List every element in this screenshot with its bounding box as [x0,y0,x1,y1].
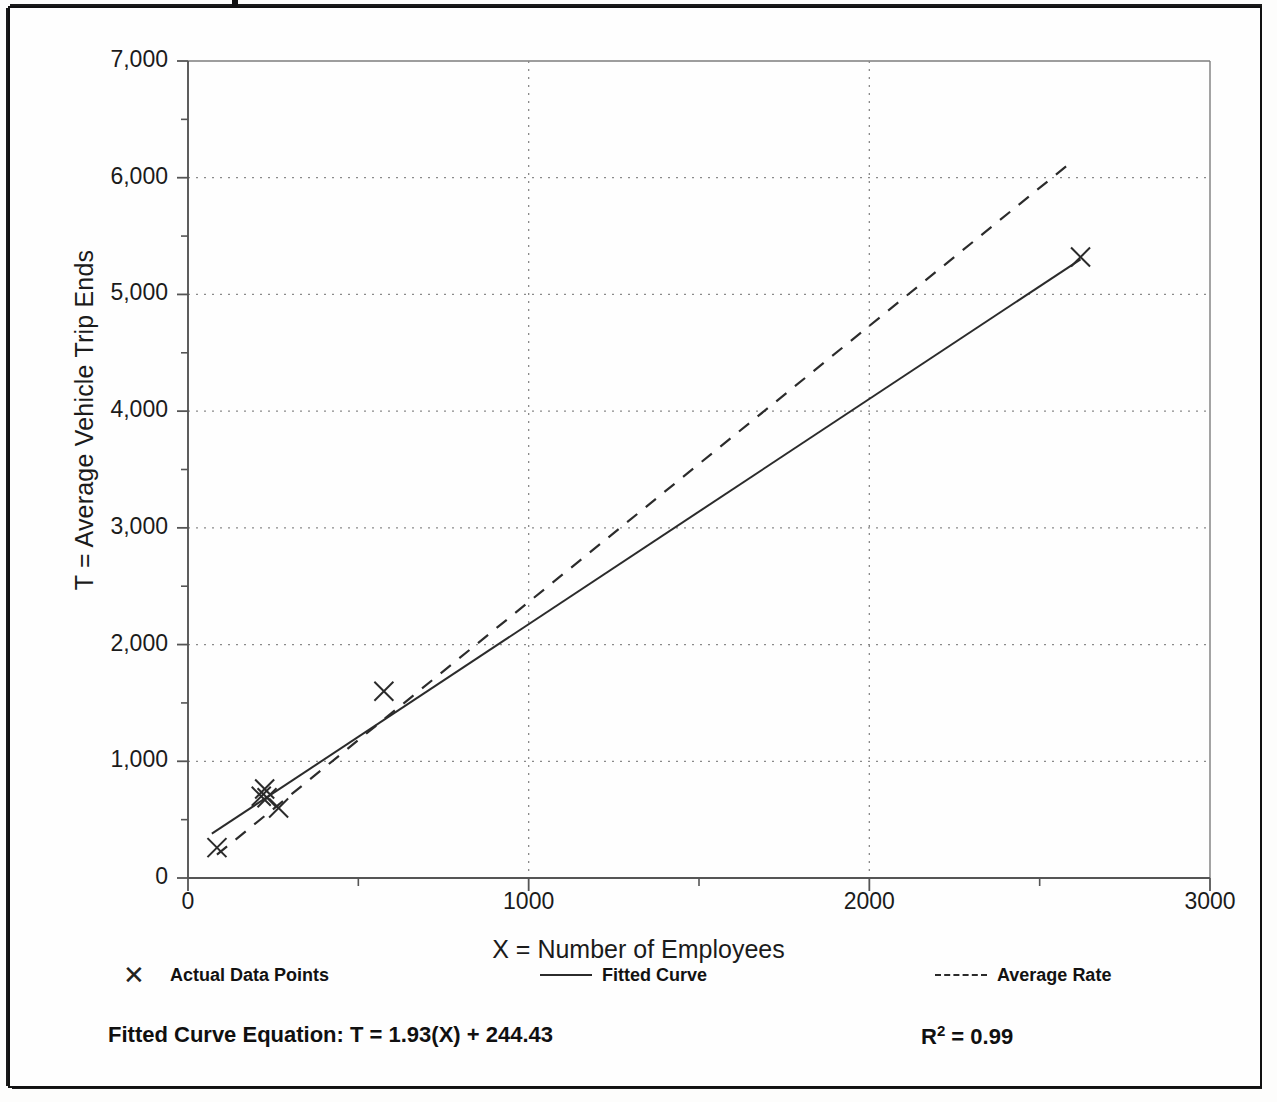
y-tick-label: 7,000 [48,46,168,73]
data-point-marker [269,798,288,817]
chart-legend: ✕ Actual Data Points Fitted Curve Averag… [0,960,1277,1000]
y-tick-label: 6,000 [48,163,168,190]
chart-page: T = Average Vehicle Trip Ends X = Number… [0,0,1277,1102]
x-tick-label: 3000 [1160,888,1260,915]
legend-item-average-rate[interactable]: Average Rate [935,960,1111,990]
legend-label-actual-data-points: Actual Data Points [170,965,329,986]
axis-ticks-group [177,61,1210,891]
x-tick-label: 2000 [819,888,919,915]
dashed-line-icon [935,964,987,986]
y-tick-label: 3,000 [48,513,168,540]
x-marker-icon: ✕ [108,964,160,986]
x-tick-label: 1000 [479,888,579,915]
data-point-markers-group [207,248,1090,858]
r-squared-value: R2 = 0.99 [921,1022,1013,1050]
y-tick-label: 0 [48,863,168,890]
legend-item-fitted-curve[interactable]: Fitted Curve [540,960,707,990]
r-squared-number: = 0.99 [945,1024,1013,1049]
data-point-marker [1071,248,1090,267]
legend-label-fitted-curve: Fitted Curve [602,965,707,986]
gridlines-group [188,61,1210,878]
data-point-marker [374,682,393,701]
axis-lines-group [188,61,1210,878]
legend-label-average-rate: Average Rate [997,965,1111,986]
x-tick-label: 0 [138,888,238,915]
footer-equation-row: Fitted Curve Equation: T = 1.93(X) + 244… [0,1022,1277,1058]
y-tick-label: 4,000 [48,396,168,423]
solid-line-icon [540,964,592,986]
y-tick-label: 5,000 [48,279,168,306]
legend-item-actual-data-points[interactable]: ✕ Actual Data Points [108,960,329,990]
y-tick-label: 2,000 [48,630,168,657]
series-lines-group [212,160,1081,854]
r-squared-exponent: 2 [937,1022,945,1039]
r-squared-prefix: R [921,1024,937,1049]
y-tick-label: 1,000 [48,746,168,773]
x-axis-title-text: X = Number of Employees [492,935,785,963]
fitted-curve-equation: Fitted Curve Equation: T = 1.93(X) + 244… [108,1022,553,1048]
